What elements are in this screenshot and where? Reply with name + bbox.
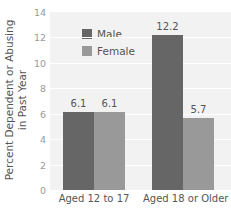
legend-swatch-female <box>82 46 92 56</box>
bar-male-0 <box>63 112 94 190</box>
legend-item-male: Male <box>82 25 135 42</box>
y-tick-label: 2 <box>32 159 46 170</box>
y-axis-label-line-2: in Past Year <box>16 20 29 181</box>
y-tick-label: 6 <box>32 108 46 119</box>
gridline <box>50 63 231 64</box>
y-tick-label: 10 <box>32 57 46 68</box>
y-tick-label: 12 <box>32 32 46 43</box>
gridline <box>50 37 231 38</box>
y-tick-label: 8 <box>32 83 46 94</box>
plot-area: Male Female 6.16.112.25.7 <box>50 12 231 190</box>
x-tick-label: Aged 18 or Older <box>143 193 223 204</box>
bar-female-1 <box>183 118 214 190</box>
legend-label-female: Female <box>97 45 135 57</box>
y-axis-label: Percent Dependent or Abusing in Past Yea… <box>2 0 30 213</box>
y-tick-label: 0 <box>32 185 46 196</box>
data-label: 6.1 <box>90 98 130 109</box>
bar-female-0 <box>94 112 125 190</box>
legend-item-female: Female <box>82 42 135 59</box>
data-label: 5.7 <box>179 104 219 115</box>
data-label: 12.2 <box>148 21 188 32</box>
legend: Male Female <box>82 25 135 59</box>
x-tick-label: Aged 12 to 17 <box>54 193 134 204</box>
gridline <box>50 88 231 89</box>
y-tick-label: 4 <box>32 134 46 145</box>
y-tick-label: 14 <box>32 7 46 18</box>
y-axis-label-line-1: Percent Dependent or Abusing <box>3 20 16 181</box>
y-axis-label-text: Percent Dependent or Abusing in Past Yea… <box>3 20 29 181</box>
